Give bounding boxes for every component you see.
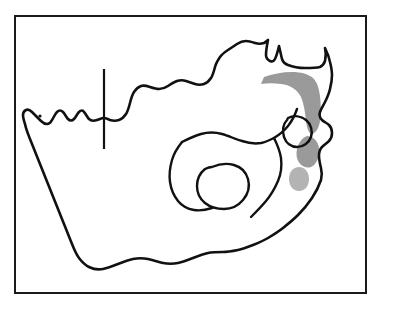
marks-group bbox=[38, 114, 41, 117]
eastern-cape-kzn-boundary bbox=[251, 138, 281, 217]
northeast-shaded-band bbox=[261, 72, 321, 134]
kwazulu-natal-coastal-shade-lower bbox=[289, 167, 309, 191]
free-state-boundary bbox=[170, 142, 212, 210]
map-frame-border bbox=[14, 15, 367, 294]
figure-root bbox=[0, 0, 399, 309]
gauteng-northwest-boundary bbox=[182, 133, 274, 144]
enclaves-group bbox=[197, 116, 312, 209]
eswatini-outline bbox=[283, 116, 312, 147]
lesotho-outline bbox=[197, 164, 249, 209]
small-dot-northwest bbox=[38, 114, 41, 117]
south-africa-map-svg bbox=[16, 17, 369, 296]
internal-boundaries-group bbox=[170, 109, 297, 217]
